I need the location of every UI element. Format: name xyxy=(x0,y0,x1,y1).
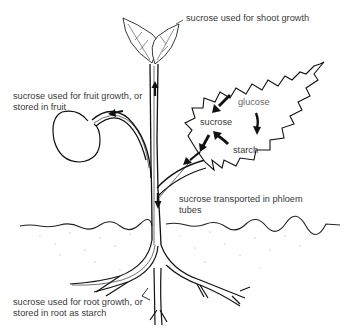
label-shoot-growth: sucrose used for shoot growth xyxy=(186,13,309,24)
label-phloem-line1: sucrose transported in phloem xyxy=(179,194,303,205)
shoot-leaves xyxy=(123,18,179,64)
label-sucrose-leaf: sucrose xyxy=(200,117,232,128)
label-root-line2: stored in root as starch xyxy=(13,308,106,319)
label-glucose: glucose xyxy=(238,97,270,108)
arrow-down-stem-icon xyxy=(155,193,162,209)
label-fruit-line2: stored in fruit xyxy=(13,102,66,113)
label-root-line1: sucrose used for root growth, or xyxy=(13,297,143,308)
label-fruit-line1: sucrose used for fruit growth, or xyxy=(13,91,142,102)
sucrose-transport-diagram: sucrose used for shoot growth sucrose us… xyxy=(0,0,348,331)
plant-drawing xyxy=(0,0,348,331)
label-phloem-line2: tubes xyxy=(179,205,201,216)
soil-dots xyxy=(39,231,315,270)
label-starch: starch xyxy=(233,145,258,156)
